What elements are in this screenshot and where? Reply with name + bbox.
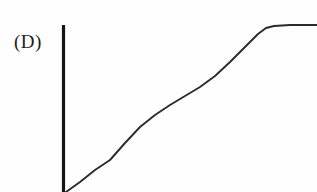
figure-panel: (D): [0, 0, 317, 192]
plot-area: [0, 0, 317, 192]
data-curve: [66, 25, 317, 192]
